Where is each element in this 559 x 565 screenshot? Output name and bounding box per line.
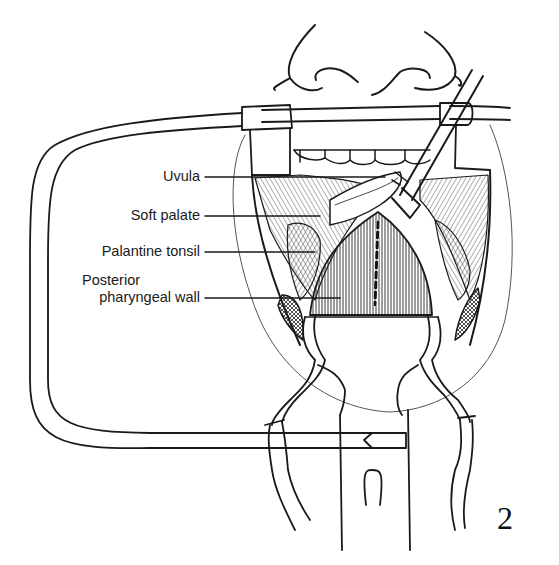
label-posterior: Posterior — [82, 272, 140, 289]
left-cheek-pad — [278, 295, 303, 340]
nose-outline — [274, 25, 461, 95]
label-palatine-tonsil: Palantine tonsil — [102, 243, 200, 260]
label-pharyngeal-wall: pharyngeal wall — [99, 289, 200, 306]
label-uvula: Uvula — [163, 168, 200, 185]
label-soft-palate: Soft palate — [131, 207, 200, 224]
figure-number: 2 — [497, 500, 513, 537]
teeth — [294, 150, 430, 165]
